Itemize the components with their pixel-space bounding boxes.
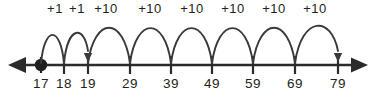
jump-label: +10: [262, 1, 286, 16]
jump-arcs-group: [41, 26, 338, 63]
tick-label: 29: [122, 76, 138, 91]
jump-label: +10: [180, 1, 204, 16]
jump-label: +10: [94, 1, 118, 16]
jump-label: +10: [138, 1, 162, 16]
tick-label: 18: [56, 76, 72, 91]
number-line-diagram: +1+1+10+10+10+10+10+10 17181929394959697…: [0, 0, 375, 103]
jump-arc: [171, 28, 212, 63]
jump-label: +1: [69, 1, 85, 16]
tick-label: 79: [330, 76, 346, 91]
tick-label: 49: [204, 76, 220, 91]
jump-arrowhead-icon: [334, 53, 342, 62]
jump-arc: [88, 28, 130, 63]
jump-arc: [212, 28, 253, 63]
jump-arc: [64, 33, 88, 63]
right-arrowhead-icon: [351, 58, 368, 73]
tick-label: 69: [287, 76, 303, 91]
jump-arc: [130, 28, 171, 63]
left-arrowhead-icon: [8, 57, 26, 73]
axis-group: [8, 57, 368, 73]
jump-arc: [295, 26, 338, 63]
jump-label: +10: [303, 1, 327, 16]
tick-label: 17: [33, 76, 49, 91]
jump-label: +1: [47, 1, 63, 16]
tick-label: 59: [245, 76, 261, 91]
jump-arc: [41, 35, 64, 63]
jump-label: +10: [221, 1, 245, 16]
jump-arc: [253, 28, 295, 63]
tick-label: 39: [163, 76, 179, 91]
jump-arrowhead-icon: [84, 53, 92, 62]
tick-label: 19: [80, 76, 96, 91]
